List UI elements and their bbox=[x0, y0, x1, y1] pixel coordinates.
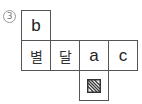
net-face-row-4: c bbox=[108, 40, 138, 71]
net-face-row-3: a bbox=[79, 40, 109, 71]
option-number-label: 3 bbox=[3, 10, 16, 23]
net-face-top: b bbox=[21, 10, 51, 41]
net-face-row-1: 별 bbox=[21, 40, 51, 71]
hatched-square-icon bbox=[87, 79, 101, 93]
net-face-row-2: 달 bbox=[50, 40, 80, 71]
net-face-bottom bbox=[79, 70, 109, 101]
